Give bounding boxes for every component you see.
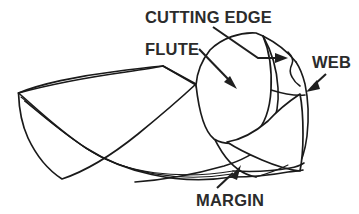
cutting-edge-arrowhead [275,53,288,63]
label-flute: FLUTE [145,40,199,58]
drill-top-land-face [19,66,197,179]
label-cutting-edge: CUTTING EDGE [145,8,272,26]
label-web: WEB [312,53,351,71]
web-notch [288,52,300,86]
label-margin: MARGIN [196,191,264,209]
drill-illustration: CUTTING EDGE FLUTE WEB MARGIN [0,0,359,214]
web-leader-group [306,74,326,92]
drill-point-diagram: CUTTING EDGE FLUTE WEB MARGIN [0,0,359,214]
